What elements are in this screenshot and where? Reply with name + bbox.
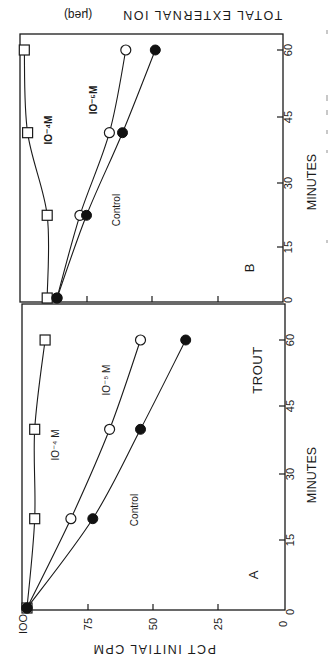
panel-b-curve-control bbox=[57, 50, 155, 298]
panel-a-xtick-label: 60 bbox=[284, 334, 296, 346]
panel-b-frame bbox=[20, 34, 283, 302]
filled-circle-marker bbox=[150, 45, 160, 55]
svg-text:TOTAL EXTERNAL ION: TOTAL EXTERNAL ION bbox=[122, 8, 282, 22]
panel-b-letter: B bbox=[242, 264, 257, 273]
open-square-marker bbox=[30, 424, 40, 434]
panel-b-x-axis-title: MINUTES bbox=[305, 154, 319, 210]
panel-a-label-1e-5: IO⁻⁵ M bbox=[101, 365, 112, 396]
panel-b-xtick-label: 45 bbox=[282, 111, 294, 123]
filled-circle-marker bbox=[136, 424, 146, 434]
panel-b-label-1e-5: IO⁻⁵M bbox=[88, 86, 99, 115]
figure: TOTAL EXTERNAL ION (μeq) 0 15 30 45 60 B… bbox=[0, 0, 332, 666]
panel-b-curve-10-m bbox=[24, 50, 48, 298]
panel-b-label-1e-4: IO⁻⁴M bbox=[43, 116, 54, 145]
panel-a-label-1e-4: IO⁻⁴ M bbox=[50, 430, 61, 461]
faint-caption-marks bbox=[326, 30, 328, 243]
open-square-marker bbox=[42, 210, 52, 220]
panel-a-curve-10-m bbox=[27, 340, 141, 608]
panel-a-xtick-label: 30 bbox=[284, 468, 296, 480]
top-axis-title: TOTAL EXTERNAL ION (μeq) bbox=[64, 8, 282, 22]
open-circle-marker bbox=[104, 128, 114, 138]
panel-a-ytick-label: 50 bbox=[147, 618, 159, 630]
open-square-marker bbox=[40, 335, 50, 345]
svg-text:PCT INITIAL CPM: PCT INITIAL CPM bbox=[92, 642, 216, 656]
panel-a-ytick-label: 75 bbox=[82, 618, 94, 630]
filled-circle-marker bbox=[181, 335, 191, 345]
open-square-marker bbox=[19, 45, 29, 55]
filled-circle-marker bbox=[22, 603, 32, 613]
panel-b-xtick-label: 0 bbox=[282, 297, 294, 303]
panel-a-xtick-label: 45 bbox=[284, 400, 296, 412]
open-circle-marker bbox=[121, 45, 131, 55]
top-axis-unit: (μeq) bbox=[64, 8, 92, 22]
open-square-marker bbox=[23, 128, 33, 138]
open-square-marker bbox=[42, 293, 52, 303]
panel-b-xtick-label: 15 bbox=[282, 241, 294, 253]
panel-a-ytick-label: 25 bbox=[212, 618, 224, 630]
open-circle-marker bbox=[136, 335, 146, 345]
filled-circle-marker bbox=[88, 514, 98, 524]
open-square-marker bbox=[30, 514, 40, 524]
bottom-axis-title: PCT INITIAL CPM bbox=[92, 642, 216, 656]
filled-circle-marker bbox=[118, 128, 128, 138]
panel-a-xtick-label: 15 bbox=[284, 534, 296, 546]
panel-a-ytick-label: 0 bbox=[277, 621, 289, 627]
panel-a-xtick-label: 0 bbox=[284, 609, 296, 615]
panel-a-ytick-label: IOO bbox=[17, 613, 29, 634]
panel-a-frame bbox=[22, 304, 285, 610]
filled-circle-marker bbox=[82, 210, 92, 220]
panel-a-trout-label: TROUT bbox=[250, 346, 265, 393]
open-circle-marker bbox=[105, 424, 115, 434]
panel-a-x-axis-title: MINUTES bbox=[305, 447, 319, 503]
panel-a-letter: A bbox=[246, 570, 261, 579]
panel-b-xtick-label: 60 bbox=[282, 44, 294, 56]
panel-b-label-control: Control bbox=[111, 194, 122, 226]
panel-b-xtick-label: 30 bbox=[282, 177, 294, 189]
panel-b: 0 15 30 45 60 B IO⁻⁴M IO⁻⁵M Control MINU… bbox=[19, 34, 319, 303]
panel-a-label-control: Control bbox=[129, 494, 140, 526]
panel-a-curve-10-m bbox=[27, 340, 45, 608]
panel-b-series bbox=[19, 45, 160, 303]
filled-circle-marker bbox=[52, 293, 62, 303]
panel-a: 0 15 30 45 60 IOO 75 50 25 0 A IO⁻⁴ M IO… bbox=[17, 304, 319, 634]
open-circle-marker bbox=[66, 514, 76, 524]
